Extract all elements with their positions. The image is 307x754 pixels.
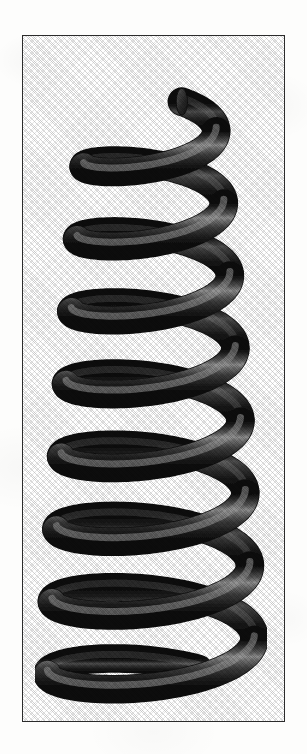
- coil-free-end-cap: [176, 88, 187, 115]
- figure-page: [0, 0, 307, 754]
- figure-frame: [22, 35, 285, 722]
- coil-spring-illustration: [23, 36, 284, 721]
